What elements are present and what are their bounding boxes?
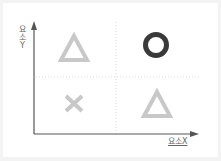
x-axis-label: 요소X: [168, 138, 187, 146]
cross-icon: [66, 96, 82, 111]
triangle-icon: [144, 92, 170, 116]
x-axis-arrow-icon: [190, 131, 199, 137]
circle-icon: [146, 35, 167, 56]
triangle-icon: [61, 36, 87, 60]
y-axis-arrow-icon: [31, 21, 37, 30]
matrix-diagram: [0, 0, 221, 161]
y-axis-label: 요소Y: [18, 26, 27, 50]
